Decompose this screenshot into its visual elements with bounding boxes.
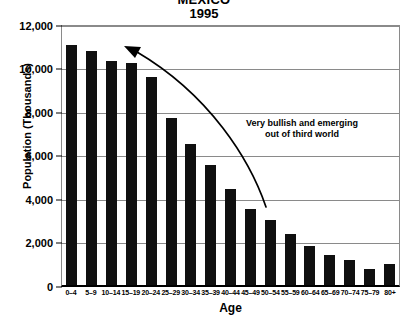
bar	[285, 234, 296, 285]
y-axis-label: Population (Thousands)	[21, 31, 33, 221]
bar-cell	[320, 26, 340, 285]
bar	[106, 61, 117, 285]
bar-cell	[82, 26, 102, 285]
annotation-line-1: Very bullish and emerging	[218, 118, 386, 129]
annotation-bullish-note: Very bullish and emerging out of third w…	[218, 118, 386, 140]
x-tick-label: 30–34	[181, 289, 201, 300]
bar-cell	[379, 26, 399, 285]
x-tick-label: 10–14	[101, 289, 121, 300]
bar	[384, 264, 395, 285]
bar-cell	[62, 26, 82, 285]
bar	[86, 51, 97, 285]
bar-cell	[240, 26, 260, 285]
bar	[304, 246, 315, 285]
bar-series	[62, 26, 399, 285]
y-tick-label-4000: 4,000	[25, 194, 62, 206]
y-tick-label-8000: 8,000	[25, 107, 62, 119]
y-tick-label-0: 0	[47, 281, 62, 293]
x-tick-label: 50–54	[260, 289, 280, 300]
chart-screenshot: MEXICO 1995 Population (Thousands) 12,00…	[0, 0, 408, 321]
x-tick-label: 5–9	[81, 289, 101, 300]
bar	[364, 269, 375, 285]
plot-area: 12,000 10,000 8,000 6,000 4,000 2,000 0	[61, 25, 400, 287]
bar-cell	[102, 26, 122, 285]
x-tick-label: 15–19	[121, 289, 141, 300]
x-tick-label: 55–59	[280, 289, 300, 300]
annotation-line-2: out of third world	[218, 129, 386, 140]
y-tick-label-10000: 10,000	[19, 63, 62, 75]
x-tick-label: 80+	[380, 289, 400, 300]
y-tick-label-12000: 12,000	[19, 20, 62, 32]
bar	[344, 260, 355, 285]
bar-cell	[201, 26, 221, 285]
bar	[146, 77, 157, 285]
x-tick-label: 0–4	[61, 289, 81, 300]
bar-cell	[181, 26, 201, 285]
x-axis-tick-labels: 0–45–910–1415–1920–2425–2930–3435–3940–4…	[61, 289, 400, 300]
bar	[126, 63, 137, 285]
bar-cell	[161, 26, 181, 285]
bar-cell	[280, 26, 300, 285]
x-tick-label: 45–49	[240, 289, 260, 300]
chart-subtitle: 1995	[0, 6, 408, 21]
x-axis-label: Age	[61, 301, 400, 315]
x-tick-label: 75–79	[360, 289, 380, 300]
bar-cell	[340, 26, 360, 285]
bar	[324, 255, 335, 285]
bar	[225, 189, 236, 285]
bar	[205, 165, 216, 285]
bar	[245, 209, 256, 285]
x-tick-label: 60–64	[300, 289, 320, 300]
x-tick-label: 25–29	[161, 289, 181, 300]
x-tick-label: 35–39	[201, 289, 221, 300]
bar	[166, 118, 177, 285]
x-tick-label: 20–24	[141, 289, 161, 300]
bar	[66, 45, 77, 285]
bar	[185, 144, 196, 285]
bar-cell	[121, 26, 141, 285]
y-tick-label-6000: 6,000	[25, 150, 62, 162]
bar	[265, 220, 276, 285]
bar-cell	[260, 26, 280, 285]
x-tick-label: 65–69	[320, 289, 340, 300]
x-tick-label: 70–74	[340, 289, 360, 300]
bar-cell	[141, 26, 161, 285]
bar-cell	[300, 26, 320, 285]
bar-cell	[359, 26, 379, 285]
bar-cell	[221, 26, 241, 285]
x-tick-label: 40–44	[221, 289, 241, 300]
y-tick-label-2000: 2,000	[25, 237, 62, 249]
